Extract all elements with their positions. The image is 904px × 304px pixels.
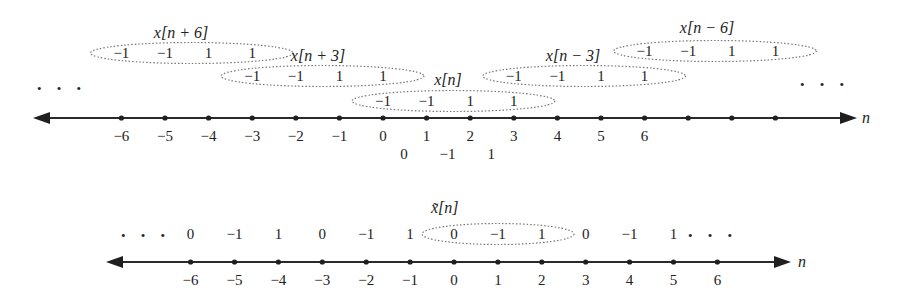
bottom-tick-label: −5 bbox=[227, 272, 243, 288]
top-tick-label: 5 bbox=[597, 128, 605, 144]
top-tick-label: 2 bbox=[466, 128, 474, 144]
top-tick-dot bbox=[206, 115, 211, 120]
top-tick-dot bbox=[119, 115, 124, 120]
top-right-ellipsis: • • • bbox=[800, 77, 850, 92]
top-axis-right-arrow-icon bbox=[840, 112, 857, 124]
periodic-value: 1 bbox=[538, 226, 546, 242]
periodic-value: 0 bbox=[319, 226, 327, 242]
bottom-tick-label: 5 bbox=[670, 272, 678, 288]
copy-value: 1 bbox=[248, 45, 256, 61]
top-axis-variable-label: n bbox=[862, 109, 870, 126]
bottom-tick-dot bbox=[276, 259, 281, 264]
bottom-number-line: n x̃[n] −6−5−4−3−2−10123456 0−110−110−11… bbox=[106, 199, 806, 288]
top-tick-label: −2 bbox=[288, 128, 304, 144]
top-tick-dot bbox=[555, 115, 560, 120]
bottom-left-ellipsis: • • • bbox=[121, 228, 171, 243]
copy-label: x[n + 3] bbox=[290, 47, 345, 64]
top-tick-label: 1 bbox=[423, 128, 431, 144]
bottom-tick-label: 4 bbox=[626, 272, 634, 288]
bottom-tick-dot bbox=[715, 259, 720, 264]
top-tick-label: −3 bbox=[244, 128, 260, 144]
bottom-tick-label: −4 bbox=[270, 272, 286, 288]
shifted-copy: −1−111x[n − 3] bbox=[483, 47, 686, 87]
bottom-tick-dot bbox=[188, 259, 193, 264]
copy-label: x[n − 3] bbox=[545, 47, 600, 64]
bottom-right-ellipsis: • • • bbox=[688, 228, 738, 243]
sum-row-value: −1 bbox=[440, 146, 456, 162]
top-tick-label: 3 bbox=[510, 128, 518, 144]
diagram-canvas: n −6−5−4−3−2−10123456 • • • • • • 0−11 −… bbox=[0, 0, 904, 304]
top-number-line: n −6−5−4−3−2−10123456 • • • • • • 0−11 bbox=[33, 77, 870, 162]
bottom-tick-dot bbox=[627, 259, 632, 264]
top-tick-dot bbox=[424, 115, 429, 120]
top-tick-dot bbox=[162, 115, 167, 120]
sum-row-value: 1 bbox=[487, 146, 495, 162]
copy-value: −1 bbox=[375, 93, 391, 109]
copy-value: 1 bbox=[772, 43, 780, 59]
bottom-tick-dot bbox=[364, 259, 369, 264]
periodic-value: 0 bbox=[187, 226, 195, 242]
copy-value: −1 bbox=[157, 45, 173, 61]
top-tick-label: −6 bbox=[113, 128, 129, 144]
copy-value: 1 bbox=[466, 93, 474, 109]
periodic-extension-diagram: n −6−5−4−3−2−10123456 • • • • • • 0−11 −… bbox=[0, 0, 904, 304]
bottom-tick-dot bbox=[451, 259, 456, 264]
top-tick-label: −4 bbox=[201, 128, 217, 144]
top-tick-dot bbox=[380, 115, 385, 120]
bottom-axis-variable-label: n bbox=[798, 253, 806, 270]
periodic-value: −1 bbox=[358, 226, 374, 242]
periodic-value: 0 bbox=[582, 226, 590, 242]
copy-value: −1 bbox=[637, 43, 653, 59]
top-tick-label: −1 bbox=[331, 128, 347, 144]
copy-label: x[n − 6] bbox=[679, 19, 734, 36]
copy-value: 1 bbox=[641, 68, 649, 84]
bottom-tick-dot bbox=[232, 259, 237, 264]
bottom-axis-left-arrow-icon bbox=[106, 256, 123, 268]
copy-value: 1 bbox=[510, 93, 518, 109]
bottom-tick-dot bbox=[671, 259, 676, 264]
bottom-tick-label: −3 bbox=[314, 272, 330, 288]
sum-row: 0−11 bbox=[400, 146, 495, 162]
top-tick-dot bbox=[337, 115, 342, 120]
periodic-value: 0 bbox=[450, 226, 458, 242]
bottom-tick-label: 3 bbox=[582, 272, 590, 288]
top-axis-ticks: −6−5−4−3−2−10123456 bbox=[113, 115, 778, 144]
top-tick-dot bbox=[686, 115, 691, 120]
top-tick-dot bbox=[468, 115, 473, 120]
bottom-tick-label: −2 bbox=[358, 272, 374, 288]
copy-value: 1 bbox=[205, 45, 213, 61]
bottom-tick-dot bbox=[408, 259, 413, 264]
bottom-tick-label: 0 bbox=[450, 272, 458, 288]
periodic-value: 1 bbox=[275, 226, 283, 242]
top-left-ellipsis: • • • bbox=[37, 81, 87, 96]
periodic-signal-title: x̃[n] bbox=[430, 199, 459, 216]
bottom-tick-dot bbox=[583, 259, 588, 264]
periodic-value: 1 bbox=[406, 226, 414, 242]
copy-value: −1 bbox=[419, 93, 435, 109]
sum-row-value: 0 bbox=[400, 146, 408, 162]
bottom-tick-dot bbox=[495, 259, 500, 264]
copy-value: 1 bbox=[728, 43, 736, 59]
top-tick-dot bbox=[773, 115, 778, 120]
copy-value: −1 bbox=[113, 45, 129, 61]
bottom-axis-ticks: −6−5−4−3−2−10123456 bbox=[183, 259, 722, 288]
copy-label: x[n + 6] bbox=[153, 24, 208, 41]
top-tick-label: 4 bbox=[554, 128, 562, 144]
shifted-copy: −1−111x[n − 6] bbox=[614, 19, 817, 62]
top-tick-dot bbox=[511, 115, 516, 120]
top-tick-dot bbox=[642, 115, 647, 120]
bottom-tick-label: 1 bbox=[494, 272, 502, 288]
top-tick-label: 6 bbox=[641, 128, 649, 144]
top-tick-dot bbox=[250, 115, 255, 120]
bottom-tick-dot bbox=[320, 259, 325, 264]
periodic-value: −1 bbox=[622, 226, 638, 242]
shifted-copies: −1−111x[n + 6]−1−111x[n + 3]−1−111x[n]−1… bbox=[90, 19, 816, 112]
copy-label: x[n] bbox=[433, 71, 462, 88]
periodic-value: −1 bbox=[227, 226, 243, 242]
copy-value: 1 bbox=[336, 68, 344, 84]
top-axis-left-arrow-icon bbox=[33, 112, 50, 124]
bottom-tick-label: 2 bbox=[538, 272, 546, 288]
bottom-tick-label: −6 bbox=[183, 272, 199, 288]
copy-value: 1 bbox=[597, 68, 605, 84]
top-tick-label: −5 bbox=[157, 128, 173, 144]
